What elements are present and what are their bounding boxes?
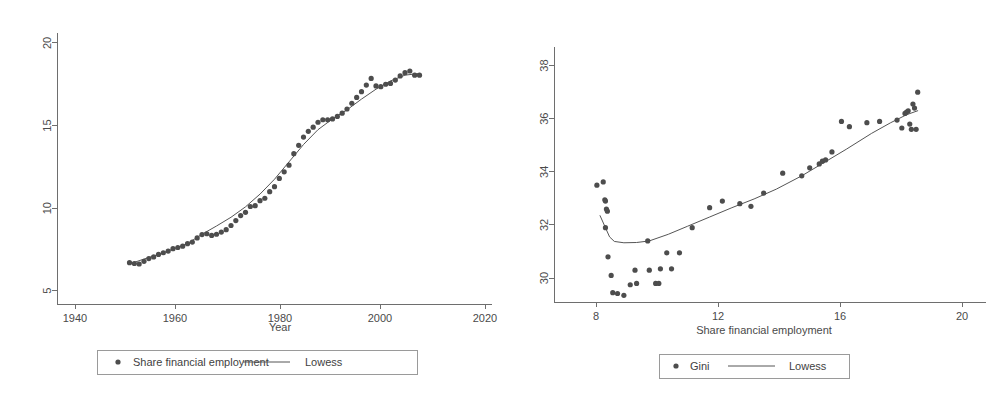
data-point — [634, 281, 639, 286]
data-point — [847, 124, 852, 129]
data-points-group — [127, 68, 422, 266]
y-tick-label: 5 — [41, 288, 53, 294]
data-point — [677, 250, 682, 255]
data-point — [315, 120, 320, 125]
data-point — [340, 111, 345, 116]
chart-legend: GiniLowess — [659, 354, 849, 378]
legend-label-lowess: Lowess — [789, 360, 827, 372]
data-point — [286, 163, 291, 168]
lowess-trend-line — [130, 73, 420, 264]
data-point — [412, 73, 417, 78]
data-point — [615, 291, 620, 296]
data-point — [664, 250, 669, 255]
data-point — [146, 256, 151, 261]
data-point — [209, 233, 214, 238]
data-point — [877, 119, 882, 124]
data-point — [594, 183, 599, 188]
data-point — [170, 246, 175, 251]
data-point — [807, 165, 812, 170]
data-point — [628, 282, 633, 287]
y-tick-label: 10 — [41, 202, 53, 214]
x-tick-label: 1940 — [63, 312, 87, 324]
x-tick-label: 16 — [834, 310, 846, 322]
data-point — [253, 203, 258, 208]
data-point — [199, 232, 204, 237]
data-point — [161, 250, 166, 255]
data-point — [175, 245, 180, 250]
data-point — [311, 125, 316, 130]
chart-panel-right: 30323436388121620Share financial employm… — [502, 0, 1005, 398]
data-points-group — [594, 90, 920, 298]
legend-label-lowess: Lowess — [305, 356, 343, 368]
data-point — [277, 176, 282, 181]
y-tick-label: 15 — [41, 119, 53, 131]
x-axis-title: Year — [269, 321, 292, 333]
data-point — [707, 205, 712, 210]
chart-legend: Share financial employmentLowess — [97, 350, 417, 374]
data-point — [915, 90, 920, 95]
data-point — [690, 225, 695, 230]
data-point — [349, 101, 354, 106]
data-point — [632, 268, 637, 273]
data-point — [369, 76, 374, 81]
chart-panel-left: 510152019401960198020002020YearShare fin… — [0, 0, 503, 398]
data-point — [359, 89, 364, 94]
data-point — [267, 189, 272, 194]
data-point — [799, 173, 804, 178]
data-point — [301, 135, 306, 140]
data-point — [132, 261, 137, 266]
data-point — [296, 143, 301, 148]
data-point — [388, 81, 393, 86]
data-point — [378, 84, 383, 89]
data-point — [603, 198, 608, 203]
y-tick-label: 20 — [41, 37, 53, 49]
lowess-trend-line — [600, 111, 918, 243]
data-point — [233, 218, 238, 223]
data-point — [907, 121, 912, 126]
data-point — [864, 120, 869, 125]
data-point — [238, 213, 243, 218]
data-point — [605, 209, 610, 214]
y-tick-label: 36 — [538, 113, 550, 125]
data-point — [137, 261, 142, 266]
data-point — [272, 184, 277, 189]
data-point — [669, 266, 674, 271]
x-tick-label: 8 — [593, 310, 599, 322]
data-point — [282, 169, 287, 174]
x-tick-label: 2020 — [473, 312, 497, 324]
data-point — [839, 119, 844, 124]
data-point — [195, 235, 200, 240]
data-point — [335, 114, 340, 119]
data-point — [204, 231, 209, 236]
data-point — [601, 179, 606, 184]
legend-marker-dot — [673, 363, 678, 368]
data-point — [291, 151, 296, 156]
data-point — [127, 260, 132, 265]
data-point — [909, 127, 914, 132]
x-tick-label: 20 — [956, 310, 968, 322]
scatter-chart-share-financial-employment: 510152019401960198020002020YearShare fin… — [0, 0, 503, 398]
data-point — [609, 273, 614, 278]
data-point — [823, 157, 828, 162]
y-tick-label: 38 — [538, 59, 550, 71]
data-point — [248, 204, 253, 209]
data-point — [306, 129, 311, 134]
data-point — [407, 68, 412, 73]
data-point — [912, 105, 917, 110]
data-point — [185, 241, 190, 246]
x-tick-label: 12 — [712, 310, 724, 322]
y-tick-label: 32 — [538, 219, 550, 231]
data-point — [402, 70, 407, 75]
data-point — [645, 238, 650, 243]
data-point — [780, 171, 785, 176]
data-point — [899, 125, 904, 130]
data-point — [257, 198, 262, 203]
data-point — [156, 252, 161, 257]
x-tick-label: 1960 — [163, 312, 187, 324]
data-point — [914, 127, 919, 132]
axes-group: 30323436388121620 — [538, 47, 986, 322]
data-point — [354, 95, 359, 100]
data-point — [243, 210, 248, 215]
data-point — [320, 117, 325, 122]
data-point — [344, 106, 349, 111]
